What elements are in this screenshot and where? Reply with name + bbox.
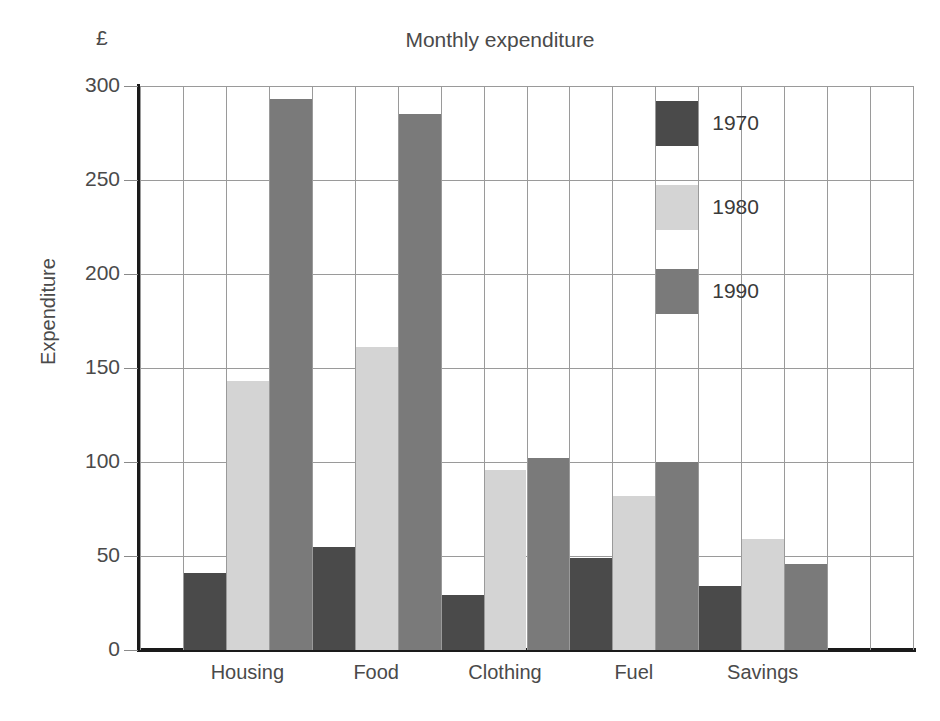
y-axis-tick-label: 250 — [48, 168, 120, 189]
y-axis-tick — [124, 650, 138, 651]
y-axis-tick-label: 200 — [48, 262, 120, 283]
legend-label-1980: 1980 — [712, 195, 759, 219]
grid-line-horizontal — [140, 86, 913, 87]
y-axis-tick — [124, 180, 138, 181]
bar-fuel-1970 — [570, 558, 612, 650]
bar-savings-1990 — [785, 564, 827, 650]
bar-savings-1970 — [699, 586, 741, 650]
legend-swatch-1970 — [656, 101, 698, 146]
bar-chart: £ Monthly expenditure Expenditure 050100… — [0, 0, 940, 721]
bar-food-1980 — [356, 347, 398, 650]
legend-swatch-1990 — [656, 269, 698, 314]
y-axis-title: Expenditure — [37, 202, 60, 422]
legend-label-1970: 1970 — [712, 111, 759, 135]
y-axis-tick-label: 100 — [48, 450, 120, 471]
plot-area — [140, 86, 913, 650]
grid-line-horizontal — [140, 274, 913, 275]
grid-line-vertical — [913, 86, 914, 650]
bar-food-1970 — [313, 547, 355, 650]
bar-housing-1980 — [227, 381, 269, 650]
grid-line-horizontal — [140, 368, 913, 369]
y-axis-tick-label: 0 — [48, 638, 120, 659]
chart-title: Monthly expenditure — [0, 28, 940, 52]
bar-food-1990 — [399, 114, 441, 650]
y-axis-tick — [124, 368, 138, 369]
bar-clothing-1980 — [485, 470, 527, 650]
legend-swatch-1980 — [656, 185, 698, 230]
y-axis-tick-label: 300 — [48, 74, 120, 95]
y-axis-tick-label: 50 — [48, 544, 120, 565]
y-axis-tick — [124, 462, 138, 463]
y-axis-tick-label: 150 — [48, 356, 120, 377]
bar-housing-1990 — [270, 99, 312, 650]
bar-clothing-1990 — [528, 458, 570, 650]
bar-clothing-1970 — [442, 595, 484, 650]
bar-housing-1970 — [184, 573, 226, 650]
grid-line-horizontal — [140, 180, 913, 181]
bar-savings-1980 — [742, 539, 784, 650]
bar-fuel-1980 — [613, 496, 655, 650]
y-axis-tick — [124, 274, 138, 275]
y-axis-tick — [124, 86, 138, 87]
x-axis-label-savings: Savings — [683, 661, 843, 684]
bar-fuel-1990 — [656, 462, 698, 650]
y-axis-tick — [124, 556, 138, 557]
legend-label-1990: 1990 — [712, 279, 759, 303]
